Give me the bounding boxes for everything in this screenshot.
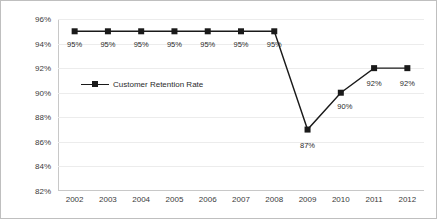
y-axis-tick-label: 90% [11,88,51,97]
data-point-label: 95% [134,40,149,49]
gridline [58,142,424,143]
data-point-label: 95% [167,40,182,49]
gridline [58,19,424,20]
gridline [58,117,424,118]
y-axis-tick-label: 94% [11,39,51,48]
chart-legend: Customer Retention Rate [81,80,203,89]
data-point-label: 95% [200,40,215,49]
legend-marker-icon [81,84,109,85]
legend-label-customer-retention-rate: Customer Retention Rate [113,80,203,89]
data-point-label: 95% [233,40,248,49]
data-point-label: 95% [267,40,282,49]
data-point-label: 95% [67,40,82,49]
gridline [58,68,424,69]
data-point-label: 95% [100,40,115,49]
y-axis-tick-label: 92% [11,64,51,73]
y-axis-tick-label: 96% [11,15,51,24]
data-point-label: 92% [400,79,415,88]
data-point-label: 92% [367,79,382,88]
y-axis-tick-label: 84% [11,162,51,171]
y-axis-tick-label: 88% [11,113,51,122]
y-axis-tick-label: 82% [11,187,51,196]
x-axis-tick-label: 2012 [387,195,427,204]
gridline [58,93,424,94]
gridline [58,166,424,167]
y-axis-tick-label: 86% [11,137,51,146]
data-point-label: 87% [300,141,315,150]
chart-frame: 96%94%92%90%88%86%84%82% 200220032004200… [0,0,437,219]
data-point-label: 90% [337,102,352,111]
